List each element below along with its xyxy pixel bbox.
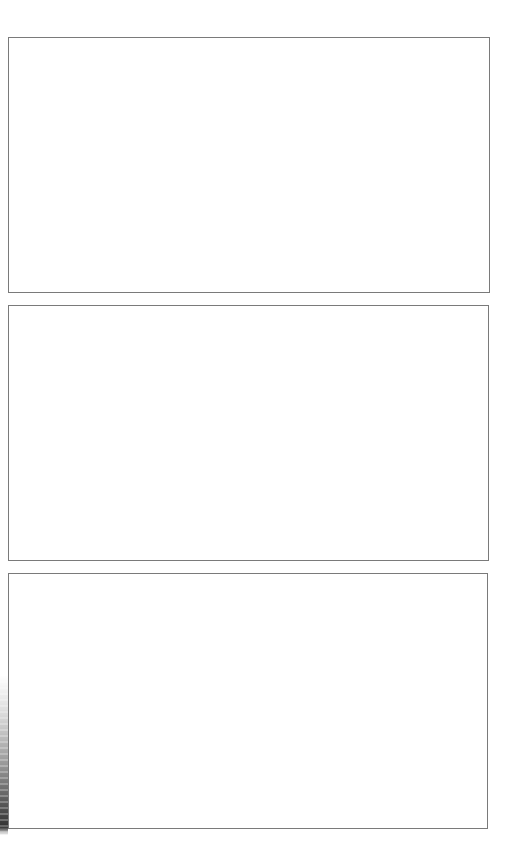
frame-label <box>9 574 10 575</box>
blank-frame-1 <box>8 37 490 293</box>
frame-label <box>9 306 10 307</box>
scan-edge-shadow <box>0 675 8 835</box>
blank-frame-3 <box>8 573 488 829</box>
frame-label <box>9 38 10 39</box>
blank-frame-2 <box>8 305 489 561</box>
